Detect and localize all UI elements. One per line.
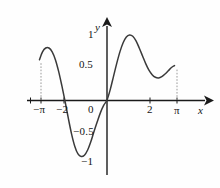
x-tick-label-2: 2 [147, 104, 153, 115]
graph-figure: 1 0.5 0 −0.5 −1 −π −2 2 π y x [0, 0, 220, 188]
x-tick-label-neg-pi: −π [33, 104, 45, 115]
y-axis-name: y [95, 22, 100, 33]
y-tick-label-1: 1 [88, 29, 94, 40]
x-tick-label-pi: π [174, 105, 180, 116]
plot-canvas [0, 0, 220, 188]
y-axis-arrowhead [102, 17, 112, 27]
y-tick-label-neg1: −1 [81, 156, 93, 167]
origin-label: 0 [88, 104, 94, 115]
y-tick-label-neg0point5: −0.5 [73, 126, 94, 137]
x-axis-name: x [198, 105, 203, 116]
x-tick-label-neg2: −2 [56, 104, 68, 115]
y-tick-label-0point5: 0.5 [79, 59, 93, 70]
x-axis-arrowhead [204, 96, 214, 106]
